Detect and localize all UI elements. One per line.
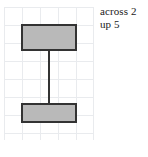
i-beam-shape[interactable] [4, 7, 94, 140]
annotation-line-across: across 2 [100, 5, 148, 18]
measurement-note: across 2 up 5 [100, 5, 148, 31]
annotation-line-up: up 5 [100, 18, 148, 31]
shape-layer [4, 7, 94, 140]
worksheet-canvas: across 2 up 5 [0, 0, 148, 157]
i-beam-polygon[interactable] [22, 25, 76, 122]
